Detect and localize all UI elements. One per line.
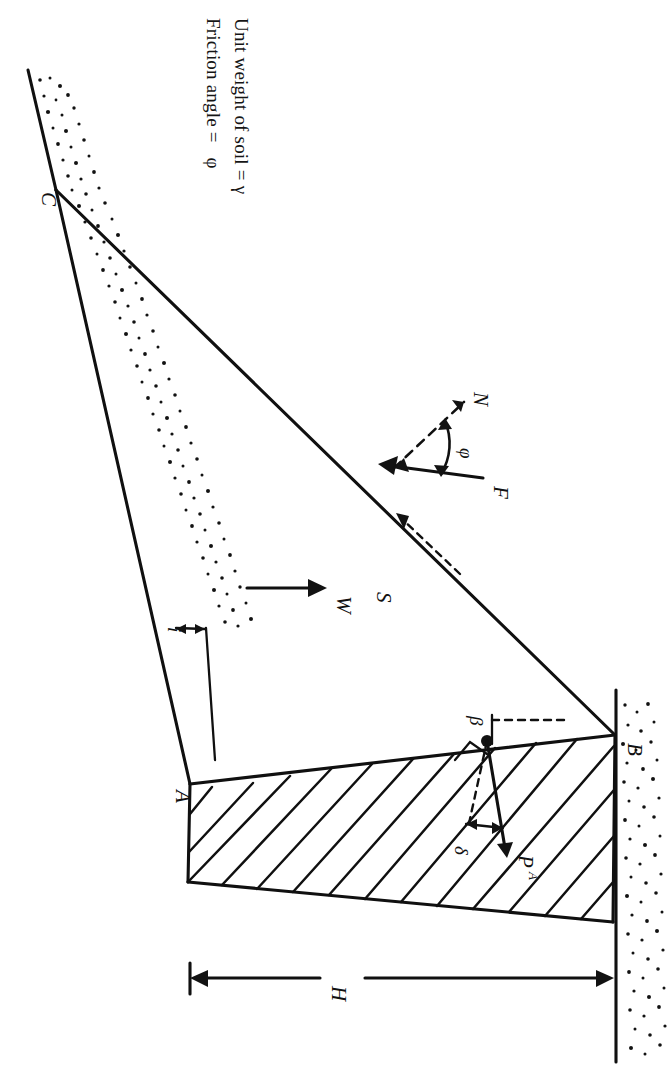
failure-plane-CB: [56, 190, 615, 735]
force-N-shaft: [394, 402, 464, 468]
note-line-unit-weight: Unit weight of soil = γ: [230, 18, 252, 194]
point-label-C: C: [37, 192, 61, 207]
point-label-A-text: A: [171, 788, 195, 803]
slope-angle-arrowhead-right: [195, 624, 205, 634]
force-PA-arrowhead: [497, 842, 513, 858]
force-label-N: N: [469, 391, 493, 407]
force-label-S: S: [372, 592, 396, 603]
slope-reference-vertical: [206, 628, 215, 760]
force-label-PA-subscript: A: [526, 871, 541, 880]
note-line-friction-angle: Friction angle = φ: [202, 18, 224, 169]
force-PA-shaft: [487, 741, 505, 848]
point-label-C-text: C: [37, 192, 61, 207]
dimension-H-arrowhead-left: [190, 970, 208, 987]
wall-normal-dashed-reference: [468, 741, 487, 828]
point-label-B-text: B: [623, 743, 647, 756]
wall-back-face-AB: [190, 735, 615, 784]
figure-root: C A B i W F N φ S: [0, 0, 671, 1079]
ground-surface-upper-segment: [28, 70, 56, 190]
force-label-PA: P: [514, 854, 538, 868]
angle-label-delta: δ: [451, 846, 472, 856]
force-W-arrowhead: [308, 579, 327, 597]
wall-section-hatching: [188, 739, 614, 919]
dimension-H-arrowhead-right: [596, 970, 614, 987]
point-label-A: A: [171, 788, 195, 803]
angle-label-beta: β: [466, 715, 487, 726]
soil-properties-note: Unit weight of soil = γ Friction angle =…: [188, 18, 468, 148]
point-label-B: B: [623, 743, 647, 756]
force-S-shaft: [400, 517, 460, 574]
angle-label-i: i: [164, 627, 185, 632]
force-label-F: F: [489, 485, 513, 499]
dimension-label-H: H: [327, 985, 351, 1003]
angle-label-phi: φ: [456, 448, 477, 459]
coulomb-wedge-diagram: C A B i W F N φ S: [0, 0, 671, 1079]
force-label-W: W: [332, 596, 356, 616]
ground-surface-line-CA: [56, 190, 190, 784]
